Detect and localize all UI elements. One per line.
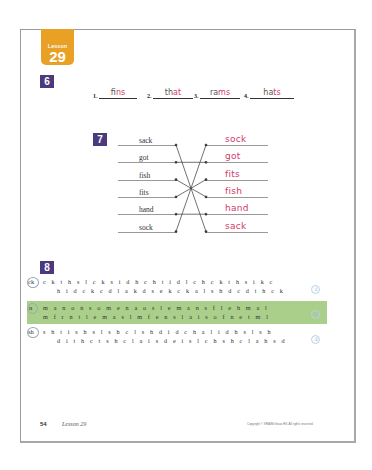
copyright-text: Copyright © SRA/McGraw-Hill. All rights … bbox=[247, 422, 313, 426]
answer-mark-2: ② bbox=[311, 310, 320, 319]
answer-mark-1: ① bbox=[311, 285, 320, 294]
row-3-line-2: d i t h c t s h c l a i s d e i s l c h … bbox=[57, 337, 287, 344]
row-1-line-1: c k t h s l c k s i d h c h t i d l c h … bbox=[43, 278, 275, 285]
row-3-line-1: s h t i s h s l s h c l s h d i d c h a … bbox=[43, 328, 273, 335]
page-number: 54 bbox=[40, 421, 47, 427]
answer-mark-3: ③ bbox=[311, 335, 320, 344]
match-connector-lines bbox=[0, 0, 372, 470]
footer-lesson-ref: Lesson 29 bbox=[62, 421, 86, 427]
key-circle bbox=[27, 277, 39, 288]
row-2-line-2: m f r n t l e m a s l m f e n s l a i s … bbox=[43, 313, 270, 320]
row-1-line-2: h i d c k c d l a k d s e k c k a l s h … bbox=[57, 287, 285, 294]
key-circle bbox=[27, 303, 38, 314]
key-circle bbox=[27, 327, 39, 338]
row-2-line-1: m a n o n s o m e n a o s l e m a n s f … bbox=[43, 304, 269, 311]
section-8-badge: 8 bbox=[40, 261, 54, 274]
